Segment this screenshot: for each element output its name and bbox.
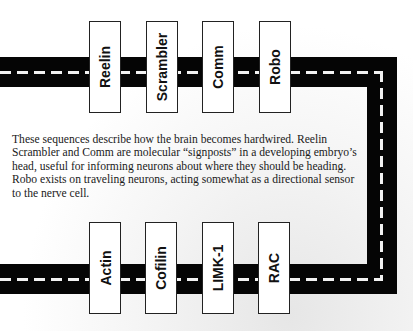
top-center-line bbox=[0, 71, 383, 74]
caption-text: These sequences describe how the brain b… bbox=[12, 133, 357, 200]
protein-label: Actin bbox=[97, 251, 113, 286]
protein-box-robo: Robo bbox=[259, 21, 291, 113]
protein-label: Reelin bbox=[97, 46, 113, 88]
protein-box-rac: RAC bbox=[258, 222, 290, 314]
protein-box-limk-1: LIMK-1 bbox=[202, 222, 234, 314]
protein-box-reelin: Reelin bbox=[89, 21, 121, 113]
protein-label: Cofilin bbox=[153, 246, 169, 290]
protein-box-cofilin: Cofilin bbox=[145, 222, 177, 314]
protein-box-scrambler: Scrambler bbox=[146, 21, 178, 113]
protein-label: LIMK-1 bbox=[210, 245, 226, 292]
protein-label: Comm bbox=[210, 45, 226, 89]
protein-label: RAC bbox=[266, 253, 282, 283]
protein-label: Scrambler bbox=[154, 33, 170, 101]
protein-label: Robo bbox=[267, 49, 283, 85]
bottom-center-line bbox=[0, 278, 383, 281]
protein-box-comm: Comm bbox=[202, 21, 234, 113]
right-center-line bbox=[380, 71, 383, 281]
protein-box-actin: Actin bbox=[89, 222, 121, 314]
